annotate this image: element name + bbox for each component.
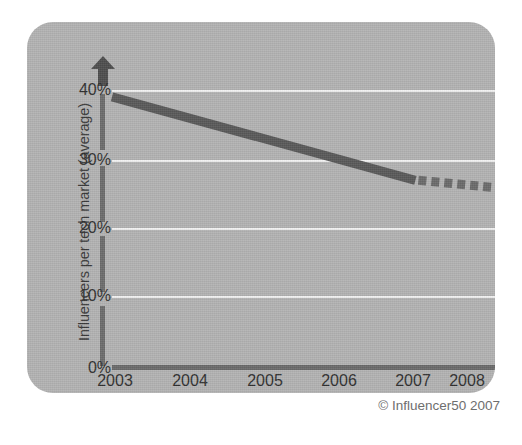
x-tick-label-group: 2003 2004 2005 2006 2007 2008 — [27, 372, 495, 393]
y-tick-label-30: 30% — [55, 152, 111, 168]
series-line-forecast — [418, 180, 491, 187]
x-tick-label-2008: 2008 — [432, 372, 495, 390]
y-tick-label-group: 40% 30% 20% 10% 0% — [27, 22, 111, 393]
y-tick-label-10: 10% — [55, 288, 111, 304]
chart-panel: Influencers per tech market (average) 40… — [27, 22, 495, 393]
x-tick-label-2003: 2003 — [80, 372, 150, 390]
series-line-actual — [112, 97, 415, 180]
y-tick-label-20: 20% — [55, 220, 111, 236]
plot-area — [112, 90, 495, 368]
x-tick-label-2004: 2004 — [155, 372, 225, 390]
copyright-notice: © Influencer50 2007 — [0, 398, 500, 413]
y-tick-label-40: 40% — [55, 82, 111, 98]
x-tick-label-2005: 2005 — [230, 372, 300, 390]
series-svg — [112, 90, 495, 368]
x-tick-label-2006: 2006 — [304, 372, 374, 390]
